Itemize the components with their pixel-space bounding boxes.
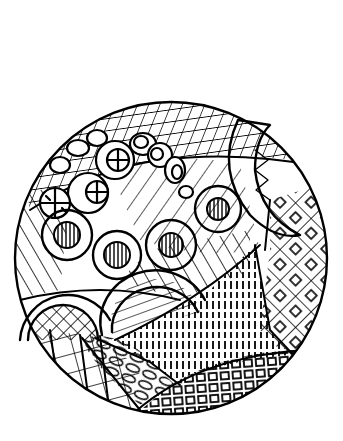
pattern-regions	[10, 90, 335, 440]
arch-crosshatch-left	[28, 305, 98, 340]
zentangle-drawing	[0, 0, 343, 441]
